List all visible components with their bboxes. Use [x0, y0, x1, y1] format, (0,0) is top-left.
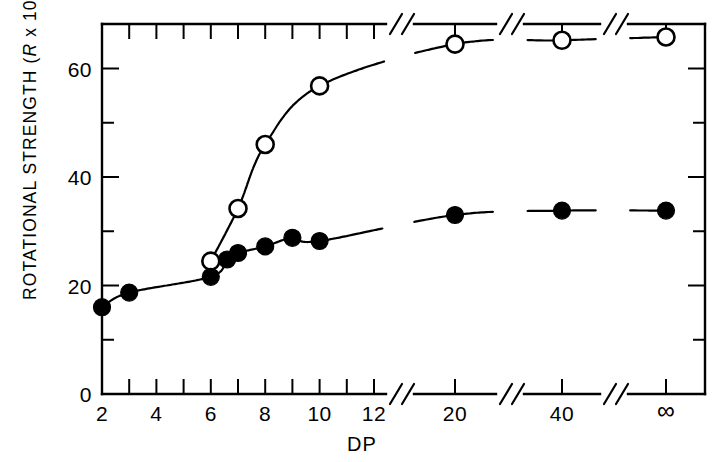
y-axis-title-part-italic: R — [20, 43, 40, 57]
top-break-slash-1a — [390, 14, 402, 34]
x-tick-label-20: 20 — [443, 402, 467, 425]
top-break-slash-2b — [512, 14, 524, 34]
x-tick-label-40: 40 — [550, 402, 574, 425]
x-tick-label-∞: ∞ — [657, 396, 675, 424]
break-slash-3b — [616, 384, 628, 404]
y-axis-ticks — [102, 69, 119, 395]
datapoint-filled-circles-10 — [311, 233, 328, 250]
datapoint-open-circles-7 — [230, 200, 247, 217]
x-tick-label-8: 8 — [259, 402, 271, 425]
x-axis-breaks — [390, 14, 628, 404]
y-axis-title-part-main: ROTATIONAL STRENGTH ( — [20, 57, 40, 300]
x-tick-label-4: 4 — [150, 402, 162, 425]
rotational-strength-chart: 0204060 246810122040∞ DP ROTATIONAL STRE… — [0, 0, 723, 462]
data-markers — [94, 29, 675, 316]
datapoint-filled-circles-8 — [257, 238, 274, 255]
x-axis-title: DP — [347, 433, 377, 455]
datapoint-filled-circles-2 — [94, 299, 111, 316]
x-axis-tick-labels: 246810122040∞ — [96, 396, 675, 425]
datapoint-open-circles-∞ — [658, 29, 675, 46]
datapoint-filled-circles-3 — [121, 284, 138, 301]
right-axis-ticks — [688, 69, 705, 340]
datapoint-filled-circles-∞ — [658, 202, 675, 219]
y-tick-label-20: 20 — [68, 275, 92, 298]
y-tick-label-0: 0 — [80, 383, 92, 406]
x-tick-label-2: 2 — [96, 402, 108, 425]
y-axis-tick-labels: 0204060 — [68, 58, 92, 407]
y-axis-title: ROTATIONAL STRENGTH (R x 1040) — [18, 0, 40, 300]
datapoint-filled-circles-20 — [447, 207, 464, 224]
top-break-slash-1b — [402, 14, 414, 34]
y-axis-title-text: ROTATIONAL STRENGTH (R x 1040) — [18, 0, 40, 300]
x-tick-label-12: 12 — [362, 402, 386, 425]
datapoint-open-circles-10 — [311, 77, 328, 94]
break-slash-3a — [604, 384, 616, 404]
datapoint-open-circles-20 — [447, 36, 464, 53]
datapoint-filled-circles-7 — [230, 245, 247, 262]
top-break-slash-2a — [500, 14, 512, 34]
datapoint-open-circles-40 — [554, 32, 571, 49]
x-tick-label-10: 10 — [307, 402, 331, 425]
break-slash-1a — [390, 384, 402, 404]
curve-filled-circles — [102, 229, 382, 308]
datapoint-open-circles-8 — [257, 136, 274, 153]
y-axis-title-part-mid: x 10 — [20, 0, 40, 43]
x-tick-label-6: 6 — [205, 402, 217, 425]
datapoint-open-circles-6 — [202, 253, 219, 270]
break-slash-2a — [500, 384, 512, 404]
top-break-slash-3a — [604, 14, 616, 34]
x-axis-ticks — [102, 24, 666, 394]
datapoint-filled-circles-6 — [202, 268, 219, 285]
y-tick-label-40: 40 — [68, 166, 92, 189]
top-break-slash-3b — [616, 14, 628, 34]
datapoint-filled-circles-9 — [284, 229, 301, 246]
y-tick-label-60: 60 — [68, 58, 92, 81]
datapoint-filled-circles-40 — [554, 202, 571, 219]
break-slash-2b — [512, 384, 524, 404]
break-slash-1b — [402, 384, 414, 404]
plot-frame — [102, 24, 705, 394]
data-curves — [102, 37, 666, 307]
